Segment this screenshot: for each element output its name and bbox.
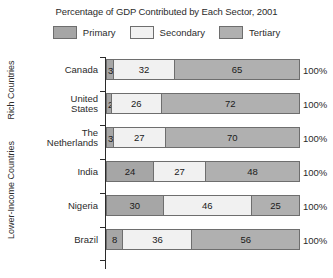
chart-row: United States 2 26 72 100% — [0, 93, 333, 114]
axis-tick — [100, 227, 105, 228]
bar-value-secondary: 46 — [202, 200, 213, 211]
legend-item-tertiary: Tertiary — [219, 26, 280, 39]
axis-tick — [100, 57, 105, 58]
row-label-united-states: United States — [12, 93, 98, 114]
chart-row: Brazil 8 36 56 100% — [0, 229, 333, 250]
bar-value-secondary: 36 — [152, 234, 163, 245]
legend-swatch-tertiary — [219, 26, 243, 39]
bar-value-tertiary: 65 — [232, 64, 243, 75]
row-label-canada: Canada — [12, 64, 98, 75]
bar-value-secondary: 26 — [131, 98, 142, 109]
legend-label-secondary: Secondary — [160, 27, 205, 38]
bar-value-tertiary: 72 — [225, 98, 236, 109]
bar-value-primary: 8 — [112, 234, 117, 245]
row-label-nigeria: Nigeria — [12, 200, 98, 211]
bar-segment-secondary: 26 — [111, 94, 161, 113]
bar-segment-primary: 8 — [107, 230, 122, 249]
stacked-bar-india: 24 27 48 — [106, 161, 300, 182]
bar-segment-tertiary: 65 — [174, 60, 299, 79]
chart-legend: Primary Secondary Tertiary — [0, 26, 333, 39]
bar-segment-tertiary: 25 — [251, 196, 299, 215]
bar-value-secondary: 27 — [174, 166, 185, 177]
bar-value-tertiary: 25 — [270, 200, 281, 211]
axis-tick — [100, 125, 105, 126]
legend-item-secondary: Secondary — [130, 26, 205, 39]
legend-label-tertiary: Tertiary — [249, 27, 280, 38]
bar-segment-tertiary: 70 — [165, 128, 299, 147]
chart-row: Canada 3 32 65 100% — [0, 59, 333, 80]
bar-value-tertiary: 48 — [247, 166, 258, 177]
bar-segment-tertiary: 48 — [205, 162, 299, 181]
bar-segment-secondary: 27 — [153, 162, 205, 181]
chart-row: Nigeria 30 46 25 100% — [0, 195, 333, 216]
axis-tick — [100, 260, 105, 261]
stacked-bar-canada: 3 32 65 — [106, 59, 300, 80]
legend-swatch-secondary — [130, 26, 154, 39]
plot-area: Rich Countries Lower-Income Countries Ca… — [0, 47, 333, 278]
legend-swatch-primary — [53, 26, 77, 39]
row-total-brazil: 100% — [303, 234, 327, 245]
row-total-united-states: 100% — [303, 98, 327, 109]
chart-title: Percentage of GDP Contributed by Each Se… — [0, 6, 333, 17]
legend-item-primary: Primary — [53, 26, 116, 39]
axis-tick — [100, 193, 105, 194]
bar-value-secondary: 27 — [134, 132, 145, 143]
bar-segment-secondary: 27 — [113, 128, 165, 147]
stacked-bar-united-states: 2 26 72 — [106, 93, 300, 114]
axis-tick — [100, 91, 105, 92]
bar-value-primary: 24 — [125, 166, 136, 177]
row-total-the-netherlands: 100% — [303, 132, 327, 143]
stacked-bar-the-netherlands: 3 27 70 — [106, 127, 300, 148]
stacked-bar-brazil: 8 36 56 — [106, 229, 300, 250]
bar-segment-primary: 30 — [107, 196, 163, 215]
bar-value-primary: 30 — [130, 200, 141, 211]
bar-segment-primary: 24 — [107, 162, 153, 181]
row-label-india: India — [12, 166, 98, 177]
row-total-nigeria: 100% — [303, 200, 327, 211]
legend-label-primary: Primary — [83, 27, 116, 38]
axis-tick — [100, 159, 105, 160]
bar-segment-tertiary: 72 — [161, 94, 299, 113]
row-total-canada: 100% — [303, 64, 327, 75]
bar-segment-tertiary: 56 — [191, 230, 299, 249]
row-label-the-netherlands: The Netherlands — [12, 127, 98, 148]
bar-value-secondary: 32 — [139, 64, 150, 75]
bar-value-tertiary: 56 — [240, 234, 251, 245]
row-label-brazil: Brazil — [12, 234, 98, 245]
chart-row: India 24 27 48 100% — [0, 161, 333, 182]
row-total-india: 100% — [303, 166, 327, 177]
chart-row: The Netherlands 3 27 70 100% — [0, 127, 333, 148]
stacked-bar-nigeria: 30 46 25 — [106, 195, 300, 216]
bar-segment-secondary: 32 — [113, 60, 174, 79]
bar-segment-secondary: 46 — [163, 196, 251, 215]
bar-segment-secondary: 36 — [122, 230, 191, 249]
bar-value-tertiary: 70 — [227, 132, 238, 143]
